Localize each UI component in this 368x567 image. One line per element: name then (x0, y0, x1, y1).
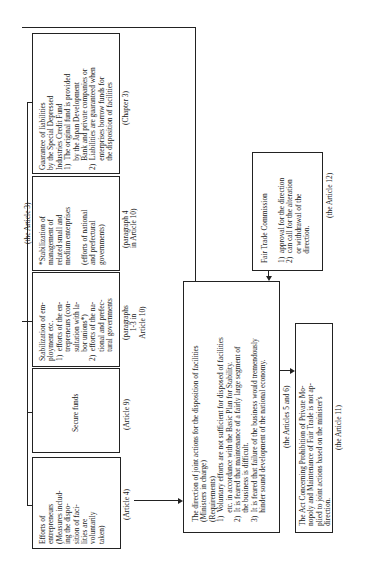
act-box: The Act Concerning Prohibition of Privat… (295, 323, 333, 533)
direction-box: The direction of joint actions for the d… (183, 281, 280, 533)
efforts-entrepreneurs-box: Efforts of entrepreneurs (Measures inclu… (32, 457, 121, 549)
stabilization-management-box: *Stabilization of management of related … (32, 176, 120, 271)
guarantee-ref: (Chapter 3) (122, 91, 130, 125)
right-connector-line (195, 27, 196, 281)
act-text: The Act Concerning Prohibition of Privat… (299, 383, 333, 526)
arrow-direction-to-act (280, 370, 290, 371)
stabilization-employment-ref: (paragraphs 1-3 in Article 10) (122, 305, 147, 340)
efforts-entrepreneurs-text: Efforts of entrepreneurs (Measures inclu… (39, 490, 106, 544)
left-bracket-line (27, 102, 28, 506)
stabilization-management-text: *Stabilization of management of related … (39, 207, 106, 265)
guarantee-box: Guarantee of liabilities by the Special … (32, 33, 120, 174)
direction-text: The direction of joint actions for the d… (192, 337, 268, 522)
secure-funds-text: Secure funds (72, 394, 80, 432)
fair-trade-box: Fair Trade Commission 1) approval for th… (252, 152, 323, 271)
guarantee-text: Guarantee of liabilities by the Special … (39, 67, 115, 170)
stabilization-management-ref: (paragraph 4 in Article 10) (122, 209, 139, 248)
fair-trade-text: Fair Trade Commission 1) approval for th… (261, 178, 311, 263)
efforts-entrepreneurs-ref: (Article 4) (123, 489, 131, 520)
bracket-tick-employment (22, 321, 32, 322)
act-ref: (the Article 11) (335, 405, 343, 450)
top-connector-line (22, 27, 196, 28)
stabilization-employment-box: Stabilization of em- ployment etc. 1) ef… (32, 272, 120, 367)
stabilization-employment-text: Stabilization of em- ployment etc. 1) ef… (39, 298, 115, 361)
secure-funds-ref: (Article 9) (123, 399, 131, 430)
arrow-head-down-icon (266, 276, 272, 281)
direction-ref: (the Articles 5 and 6) (283, 386, 291, 448)
fair-trade-ref: (the Article 12) (326, 173, 334, 218)
arrow-efforts-to-direction (134, 500, 178, 501)
secure-funds-box: Secure funds (32, 368, 120, 453)
